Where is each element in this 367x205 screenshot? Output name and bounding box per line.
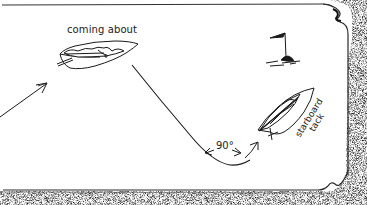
sailing-diagram: coming about 90° starboard tack bbox=[0, 0, 367, 205]
coming-about-label: coming about bbox=[67, 25, 137, 35]
incoming-course-arrow bbox=[0, 83, 47, 117]
angle-label: 90° bbox=[216, 141, 234, 151]
flag-buoy bbox=[266, 33, 300, 66]
boat-coming-about bbox=[57, 41, 138, 69]
